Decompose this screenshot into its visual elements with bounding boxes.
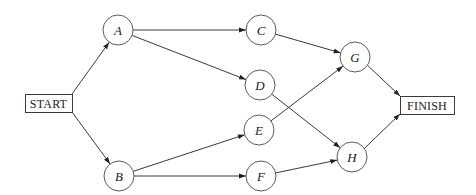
node-finish: FINISH	[401, 97, 455, 115]
node-b: B	[104, 161, 134, 191]
node-a: A	[103, 15, 133, 45]
node-label: E	[254, 123, 263, 138]
network-diagram: STARTABCDEFGHFINISH	[0, 0, 476, 195]
edge-g-to-finish	[368, 65, 401, 96]
edge-b-to-e	[133, 135, 244, 172]
edge-d-to-h	[272, 94, 340, 148]
node-label: G	[350, 50, 360, 65]
edge-start-to-b	[72, 112, 110, 164]
node-e: E	[244, 115, 274, 145]
nodes-layer: STARTABCDEFGHFINISH	[26, 15, 455, 191]
node-label: C	[257, 23, 266, 38]
edge-start-to-a	[72, 42, 109, 94]
node-d: D	[245, 70, 275, 100]
edge-h-to-finish	[364, 114, 400, 149]
node-start: START	[26, 95, 73, 113]
node-label: A	[113, 23, 122, 38]
edge-e-to-g	[271, 66, 343, 121]
node-f: F	[246, 161, 276, 191]
edge-f-to-h	[276, 160, 338, 173]
edge-a-to-d	[132, 35, 246, 79]
node-h: H	[337, 142, 367, 172]
node-label: D	[254, 78, 265, 93]
node-c: C	[246, 15, 276, 45]
node-label: START	[30, 97, 68, 111]
node-g: G	[340, 42, 370, 72]
node-label: F	[256, 169, 266, 184]
node-label: H	[346, 150, 357, 165]
edge-c-to-g	[275, 34, 340, 53]
node-label: FINISH	[407, 99, 447, 113]
node-label: B	[115, 169, 123, 184]
